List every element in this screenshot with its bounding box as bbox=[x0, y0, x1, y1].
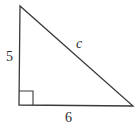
triangle-outline bbox=[19, 6, 133, 106]
horizontal-leg-label: 6 bbox=[65, 110, 72, 125]
hypotenuse-label: c bbox=[76, 36, 83, 51]
right-angle-marker bbox=[19, 91, 33, 105]
right-triangle-diagram: 5 6 c bbox=[0, 0, 138, 131]
vertical-leg-label: 5 bbox=[6, 49, 13, 64]
